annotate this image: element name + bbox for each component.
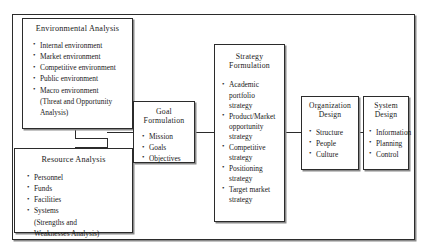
node-list-goal-formulation: Mission Goals Objectives bbox=[134, 127, 194, 167]
node-system-design: System Design Information Planning Contr… bbox=[363, 96, 409, 170]
list-item: Product/Market bbox=[222, 112, 280, 121]
list-item: Market environment bbox=[33, 52, 128, 61]
node-resource-analysis: Resource Analysis Personnel Funds Facili… bbox=[14, 148, 133, 233]
list-item: Macro environment bbox=[33, 86, 128, 95]
node-title-environmental-analysis: Environmental Analysis bbox=[23, 19, 132, 36]
list-item-continuation: strategy bbox=[222, 101, 280, 110]
node-title-line2: Formulation bbox=[218, 61, 281, 70]
list-item-continuation: strategy bbox=[222, 174, 280, 183]
node-organization-design: Organization Design Structure People Cul… bbox=[301, 96, 359, 170]
list-item: Objectives bbox=[142, 154, 190, 163]
list-item: Target market bbox=[222, 185, 280, 194]
node-list-resource-analysis: Personnel Funds Facilities Systems (Stre… bbox=[15, 167, 132, 243]
node-title-line1: Strategy bbox=[218, 52, 281, 61]
list-item: Structure bbox=[309, 128, 354, 137]
node-list-system-design: Information Planning Control bbox=[364, 122, 408, 163]
node-title-line2: Design bbox=[367, 111, 405, 120]
node-title-resource-analysis: Resource Analysis bbox=[15, 149, 132, 167]
list-item-continuation: strategy bbox=[222, 195, 280, 204]
list-item: Culture bbox=[309, 150, 354, 159]
list-item: Personnel bbox=[27, 173, 128, 182]
node-title-goal-formulation: Goal Formulation bbox=[134, 102, 194, 127]
node-title-line2: Formulation bbox=[137, 116, 191, 125]
node-title-line1: Goal bbox=[137, 107, 191, 116]
list-item-continuation: strategy bbox=[222, 153, 280, 162]
list-item: Competitive environment bbox=[33, 63, 128, 72]
node-title-system-design: System Design bbox=[364, 97, 408, 122]
diagram-canvas: Environmental Analysis Internal environm… bbox=[0, 0, 428, 251]
list-item: Positioning bbox=[222, 164, 280, 173]
node-goal-formulation: Goal Formulation Mission Goals Objective… bbox=[133, 101, 195, 163]
list-item-continuation: strategy bbox=[222, 132, 280, 141]
list-item-continuation: portfolio bbox=[222, 91, 280, 100]
connector-trunk-top bbox=[75, 138, 108, 139]
list-item-continuation: Analysis) bbox=[33, 108, 128, 117]
list-item: Planning bbox=[369, 139, 404, 148]
list-item-continuation: (Strengths and bbox=[27, 218, 128, 227]
list-item: Public environment bbox=[33, 74, 128, 83]
connector-trunk-to-goal bbox=[107, 132, 134, 133]
list-item: Academic bbox=[222, 80, 280, 89]
node-strategy-formulation: Strategy Formulation Academic portfolio … bbox=[214, 44, 285, 222]
node-title-strategy-formulation: Strategy Formulation bbox=[215, 45, 284, 72]
node-list-environmental-analysis: Internal environment Market environment … bbox=[23, 36, 132, 123]
node-title-organization-design: Organization Design bbox=[302, 97, 358, 122]
list-item: Mission bbox=[142, 132, 190, 141]
list-item: Funds bbox=[27, 184, 128, 193]
list-item: Facilities bbox=[27, 195, 128, 204]
list-item-continuation: (Threat and Opportunity bbox=[33, 97, 128, 106]
list-item: Control bbox=[369, 150, 404, 159]
list-item: Information bbox=[369, 128, 404, 137]
node-list-strategy-formulation: Academic portfolio strategy Product/Mark… bbox=[215, 72, 284, 208]
list-item-continuation: Weaknesses Analysis) bbox=[27, 229, 128, 238]
connector-strategy-to-organization bbox=[285, 132, 302, 133]
node-title-line2: Design bbox=[305, 111, 355, 120]
node-list-organization-design: Structure People Culture bbox=[302, 122, 358, 163]
list-item: Internal environment bbox=[33, 41, 128, 50]
list-item: Competitive bbox=[222, 143, 280, 152]
list-item: Systems bbox=[27, 206, 128, 215]
list-item-continuation: opportunity bbox=[222, 122, 280, 131]
list-item: Goals bbox=[142, 143, 190, 152]
list-item: People bbox=[309, 139, 354, 148]
connector-goal-to-strategy bbox=[195, 132, 215, 133]
node-environmental-analysis: Environmental Analysis Internal environm… bbox=[22, 18, 133, 129]
